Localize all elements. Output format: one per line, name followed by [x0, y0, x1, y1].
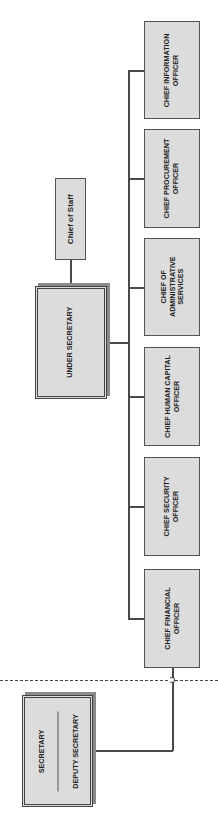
chief-of-administrative-services-box: CHIEF OFADMINISTRATIVESERVICES [144, 238, 200, 336]
deputy-secretary-label: DEPUTY SECRETARY [68, 711, 81, 791]
label: OFFICER [172, 355, 181, 438]
under-secretary-box: UNDER SECRETARY [35, 286, 107, 399]
line-hop [169, 677, 175, 683]
dashed-boundary-line [0, 680, 218, 681]
label: SERVICES [176, 257, 185, 318]
label: OFFICER [172, 139, 181, 219]
chief-procurement-officer-box: CHIEF PROCUREMENTOFFICER [144, 129, 200, 228]
secretary-divider [57, 711, 58, 791]
chief-of-staff-box: Chief of Staff [55, 178, 86, 260]
chief-security-officer-box: CHIEF SECURITYOFFICER [144, 457, 200, 556]
chiefs-bus-line [128, 70, 130, 619]
chief-human-capital-officer-box: CHIEF HUMAN CAPITALOFFICER [144, 347, 200, 446]
label: OFFICER [172, 587, 181, 649]
secretary-connector-h [93, 750, 173, 752]
under-secretary-connector [107, 342, 129, 344]
chief-of-staff-connector [70, 260, 72, 284]
secretary-label: SECRETARY [34, 711, 47, 791]
branch-cpo [128, 178, 144, 180]
branch-cso [128, 506, 144, 508]
branch-chco [128, 396, 144, 398]
label: CHIEF OF [159, 257, 168, 318]
branch-cfo [128, 618, 144, 620]
secretary-box: SECRETARY DEPUTY SECRETARY [22, 695, 93, 807]
branch-cio [128, 70, 144, 72]
label: OFFICER [172, 477, 181, 537]
label: UNDER SECRETARY [67, 307, 76, 378]
label: OFFICER [172, 33, 181, 107]
chief-financial-officer-box: CHIEF FINANCIALOFFICER [144, 569, 200, 668]
chief-information-officer-box: CHIEF INFORMATIONOFFICER [144, 21, 200, 119]
branch-cas [128, 287, 144, 289]
label: CHIEF HUMAN CAPITAL [164, 355, 173, 438]
label: Chief of Staff [66, 194, 75, 244]
